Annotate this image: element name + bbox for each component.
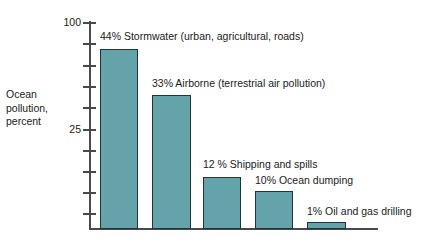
bar-airborne [152,95,191,229]
y-axis-tick-3 [83,65,96,67]
bar-shipping-spills [203,177,241,229]
bar-label-shipping-spills: 12 % Shipping and spills [203,159,317,170]
y-axis-tick-1 [83,22,96,24]
y-axis-title-line-2: pollution, [6,102,72,116]
y-axis-title-line-1: Ocean [6,88,72,102]
y-axis-tick-5 [83,107,96,109]
bar-label-ocean-dumping: 10% Ocean dumping [255,175,353,186]
y-axis-title: Ocean pollution, percent [6,88,72,129]
y-axis-tick-7 [83,150,96,152]
y-axis-tick-4 [83,86,96,88]
y-axis-tick-6 [83,129,96,131]
bar-label-airborne: 33% Airborne (terrestrial air pollution) [152,78,325,89]
bar-label-stormwater: 44% Stormwater (urban, agricultural, roa… [100,31,304,42]
y-axis-tick-10 [83,213,96,215]
y-axis-tick-2 [83,43,96,45]
bar-oil-gas-drilling [307,222,346,229]
y-axis-label-25: 25 [51,124,81,135]
bar-label-oil-gas-drilling: 1% Oil and gas drilling [307,206,411,217]
bar-stormwater [100,49,138,229]
y-axis-tick-8 [83,171,96,173]
ocean-pollution-bar-chart: Ocean pollution, percent 100 25 44% Stor… [0,0,429,243]
y-axis-line [89,21,91,229]
bar-ocean-dumping [255,191,293,229]
y-axis-label-100: 100 [51,17,81,28]
y-axis-tick-9 [83,192,96,194]
